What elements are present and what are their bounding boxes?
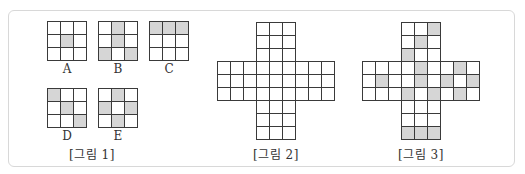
grid-cell-shaded xyxy=(73,114,87,128)
grid-cell xyxy=(217,74,231,88)
grid-cell xyxy=(375,61,389,75)
grid-cell xyxy=(401,22,415,36)
grid-cell xyxy=(175,34,189,48)
grid-cell xyxy=(269,87,283,101)
grid-cell xyxy=(47,34,61,48)
grid-cell xyxy=(47,21,61,35)
pattern-e-label: E xyxy=(98,130,138,142)
grid-cell xyxy=(149,34,163,48)
grid-cell xyxy=(256,87,270,101)
grid-cell xyxy=(73,101,87,115)
grid-cell xyxy=(427,35,441,49)
grid-cell-shaded xyxy=(111,34,125,48)
grid-cell xyxy=(256,48,270,62)
grid-cell xyxy=(98,114,112,128)
grid-cell xyxy=(269,74,283,88)
grid-cell xyxy=(269,100,283,114)
grid-cell xyxy=(440,61,454,75)
grid-cell xyxy=(256,35,270,49)
grid-cell-shaded xyxy=(111,21,125,35)
grid-cell-shaded xyxy=(440,74,454,88)
grid-cell xyxy=(282,35,296,49)
grid-cell xyxy=(388,87,402,101)
grid-cell xyxy=(47,47,61,61)
grid-cell-shaded xyxy=(149,21,163,35)
grid-cell-shaded xyxy=(427,22,441,36)
grid-cell xyxy=(243,74,257,88)
grid-cell xyxy=(440,87,454,101)
grid-cell xyxy=(175,47,189,61)
grid-cell-shaded xyxy=(401,48,415,62)
grid-cell xyxy=(124,114,138,128)
grid-cell xyxy=(256,22,270,36)
grid-cell xyxy=(282,22,296,36)
grid-cell xyxy=(282,100,296,114)
pattern-d-label: D xyxy=(47,130,87,142)
grid-cell-shaded xyxy=(414,74,428,88)
pattern-a-label: A xyxy=(47,63,87,75)
grid-cell-shaded xyxy=(47,88,61,102)
grid-cell xyxy=(466,87,480,101)
grid-cell xyxy=(269,48,283,62)
grid-cell xyxy=(308,61,322,75)
grid-cell-shaded xyxy=(453,87,467,101)
grid-cell xyxy=(73,88,87,102)
grid-cell xyxy=(230,87,244,101)
grid-cell xyxy=(111,47,125,61)
grid-cell xyxy=(256,61,270,75)
grid-cell xyxy=(73,34,87,48)
grid-cell xyxy=(401,61,415,75)
grid-cell xyxy=(230,74,244,88)
grid-cell xyxy=(282,126,296,140)
grid-cell xyxy=(375,87,389,101)
grid-cell-shaded xyxy=(375,74,389,88)
pattern-c-label: C xyxy=(149,63,189,75)
grid-cell xyxy=(98,21,112,35)
grid-cell xyxy=(60,21,74,35)
grid-cell xyxy=(73,47,87,61)
grid-cell xyxy=(230,61,244,75)
grid-cell-shaded xyxy=(401,87,415,101)
grid-cell xyxy=(308,74,322,88)
grid-cell-shaded xyxy=(466,74,480,88)
grid-cell-shaded xyxy=(414,35,428,49)
grid-cell xyxy=(269,35,283,49)
grid-cell xyxy=(308,87,322,101)
grid-cell xyxy=(162,47,176,61)
grid-cell xyxy=(269,113,283,127)
grid-cell xyxy=(124,88,138,102)
pattern-b-label: B xyxy=(98,63,138,75)
grid-cell xyxy=(414,100,428,114)
grid-cell xyxy=(269,126,283,140)
grid-cell xyxy=(414,22,428,36)
grid-cell-shaded xyxy=(60,34,74,48)
grid-cell xyxy=(269,22,283,36)
grid-cell-shaded xyxy=(414,61,428,75)
grid-cell xyxy=(243,61,257,75)
grid-cell xyxy=(321,74,335,88)
grid-cell-shaded xyxy=(427,87,441,101)
grid-cell xyxy=(466,61,480,75)
grid-cell-shaded xyxy=(111,88,125,102)
figure1-caption: [그림 1] xyxy=(52,148,132,162)
grid-cell xyxy=(243,87,257,101)
grid-cell-shaded xyxy=(401,126,415,140)
grid-cell xyxy=(162,34,176,48)
grid-cell xyxy=(401,113,415,127)
grid-cell xyxy=(388,74,402,88)
grid-cell xyxy=(111,101,125,115)
grid-cell xyxy=(427,113,441,127)
grid-cell-shaded xyxy=(124,101,138,115)
grid-cell xyxy=(256,100,270,114)
grid-cell xyxy=(321,61,335,75)
grid-cell xyxy=(269,61,283,75)
grid-cell xyxy=(98,88,112,102)
grid-cell xyxy=(124,34,138,48)
grid-cell-shaded xyxy=(98,47,112,61)
grid-cell xyxy=(282,113,296,127)
grid-cell xyxy=(401,35,415,49)
grid-cell xyxy=(47,101,61,115)
grid-cell xyxy=(282,61,296,75)
figure2-caption: [그림 2] xyxy=(236,148,316,162)
grid-cell xyxy=(427,100,441,114)
